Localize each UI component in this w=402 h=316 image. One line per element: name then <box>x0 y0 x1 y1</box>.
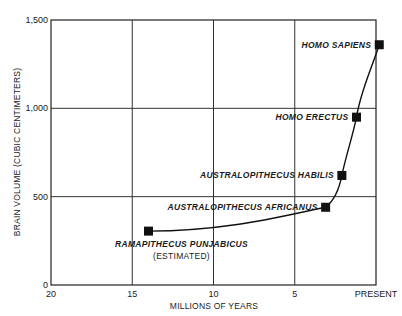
chart-svg: 05001,0001,5002015105PRESENT RAMAPITHECU… <box>0 0 402 316</box>
x-axis-label: MILLIONS OF YEARS <box>170 301 258 311</box>
data-marker <box>352 113 361 122</box>
data-marker <box>337 171 346 180</box>
x-tick-label: 5 <box>292 289 297 299</box>
data-marker <box>321 203 330 212</box>
brain-volume-chart: 05001,0001,5002015105PRESENT RAMAPITHECU… <box>0 0 402 316</box>
x-tick-label: 15 <box>127 289 137 299</box>
axes: 05001,0001,5002015105PRESENT <box>25 15 397 299</box>
point-label: RAMAPITHECUS PUNJABICUS <box>115 239 248 249</box>
point-annotations: RAMAPITHECUS PUNJABICUS(ESTIMATED)AUSTRA… <box>115 40 371 261</box>
data-marker <box>375 40 384 49</box>
point-label: HOMO SAPIENS <box>302 40 372 50</box>
y-tick-label: 1,000 <box>25 103 48 113</box>
data-marker <box>144 227 153 236</box>
point-label: AUSTRALOPITHECUS HABILIS <box>199 170 334 180</box>
x-tick-label: 10 <box>208 289 218 299</box>
y-axis-label: BRAIN VOLUME (CUBIC CENTIMETERS) <box>12 68 22 236</box>
point-label: HOMO ERECTUS <box>275 112 348 122</box>
x-tick-label: 20 <box>46 289 56 299</box>
x-tick-label: PRESENT <box>355 289 398 299</box>
point-label: AUSTRALOPITHECUS AFRICANUS <box>167 202 318 212</box>
point-note: (ESTIMATED) <box>153 251 210 261</box>
y-tick-label: 1,500 <box>25 15 48 25</box>
y-tick-label: 500 <box>33 192 48 202</box>
